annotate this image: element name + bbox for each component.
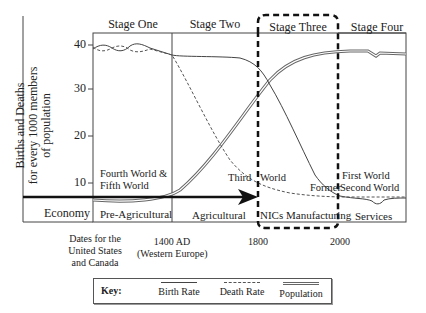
dates-label-line: and Canada — [63, 257, 127, 269]
date-value: 1400 AD — [137, 236, 207, 248]
legend-label: Birth Rate — [158, 286, 199, 297]
legend-label: Death Rate — [220, 286, 265, 297]
third-note: Third — [228, 172, 251, 184]
y-tick-20: 20 — [64, 128, 86, 143]
y-tick-30: 30 — [64, 81, 86, 96]
double-line-icon — [283, 282, 319, 285]
y-axis-label: Births and Deaths for every 1000 members… — [14, 46, 53, 206]
world-note: World — [260, 172, 286, 184]
legend-label: Population — [279, 288, 322, 299]
note-line: Fifth World — [100, 180, 167, 192]
solid-line-icon — [161, 282, 197, 283]
stage-three-label: Stage Three — [263, 20, 333, 35]
stage-three-highlight — [258, 15, 338, 228]
economy-nics-manufacturing: NICs Manufacturing — [260, 209, 351, 221]
legend: Key: Birth Rate Death Rate Population — [93, 278, 332, 304]
note-line: Fourth World & — [100, 168, 167, 180]
first-world-note: First World — [342, 170, 390, 182]
legend-population: Population — [274, 282, 328, 299]
date-sub: (Western Europe) — [137, 248, 207, 260]
date-1800: 1800 — [240, 236, 276, 248]
y-ticks — [88, 45, 93, 183]
fourth-world-note: Fourth World & Fifth World — [100, 168, 167, 192]
stage-four-label: Stage Four — [342, 20, 412, 35]
date-2000: 2000 — [322, 236, 358, 248]
economy-services: Services — [355, 210, 392, 222]
economy-label: Economy — [44, 206, 90, 221]
economy-agricultural: Agricultural — [192, 209, 246, 221]
legend-title: Key: — [101, 285, 122, 296]
economy-pre-agricultural: Pre-Agricultural — [100, 208, 172, 220]
y-tick-40: 40 — [64, 37, 86, 52]
y-axis-label-line: of population — [40, 46, 53, 206]
second-world-note: Second World — [340, 182, 399, 194]
stage-two-label: Stage Two — [180, 17, 250, 32]
legend-death-rate: Death Rate — [214, 282, 270, 297]
dashed-line-icon — [224, 282, 260, 283]
stage-one-label: Stage One — [98, 17, 168, 32]
legend-birth-rate: Birth Rate — [154, 282, 204, 297]
y-tick-10: 10 — [64, 175, 86, 190]
dates-label-line: Dates for the — [63, 233, 127, 245]
dates-label: Dates for the United States and Canada — [63, 233, 127, 269]
former-note: Former — [310, 182, 341, 194]
dates-label-line: United States — [63, 245, 127, 257]
date-1400: 1400 AD (Western Europe) — [137, 236, 207, 260]
